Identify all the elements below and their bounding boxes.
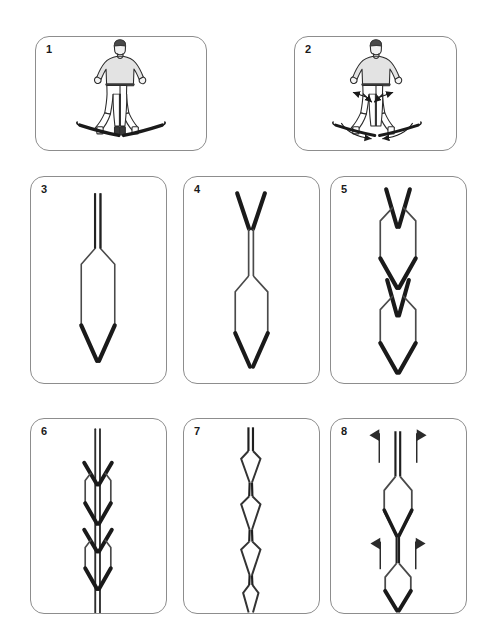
track-double-wedge: [331, 177, 466, 383]
panel-6: 6: [30, 418, 167, 614]
skier-snowplough-arrows-figure: [295, 37, 456, 150]
panel-8: 8: [330, 418, 467, 614]
track-lozenges: [184, 419, 319, 613]
panel-7: 7: [183, 418, 320, 614]
track-v-then-wedge: [184, 177, 319, 383]
instruction-sheet: 1: [0, 0, 496, 638]
panel-5: 5: [330, 176, 467, 384]
track-lozenges-arrows: [331, 419, 466, 613]
skier-snowplough-figure: [36, 37, 206, 150]
panel-2: 2: [294, 36, 457, 151]
track-straight-wedge: [31, 177, 166, 383]
panel-4: 4: [183, 176, 320, 384]
panel-1: 1: [35, 36, 207, 151]
track-chevrons: [31, 419, 166, 613]
panel-3: 3: [30, 176, 167, 384]
